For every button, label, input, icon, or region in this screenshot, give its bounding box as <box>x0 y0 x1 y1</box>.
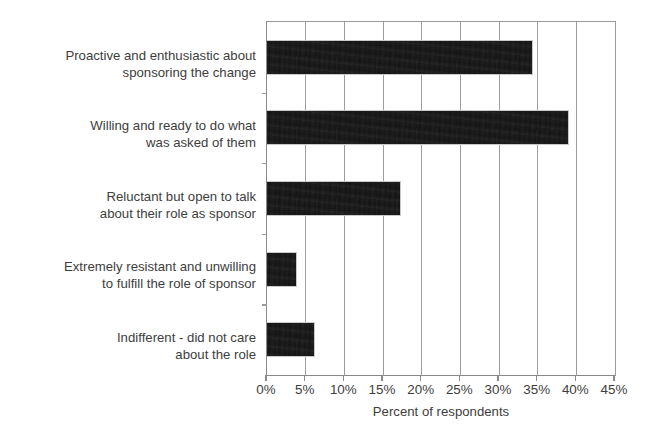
gridline-45% <box>615 22 616 375</box>
bar-4 <box>267 322 315 357</box>
bar-1 <box>267 110 569 145</box>
x-axis-tick-labels: 0%5%10%15%20%25%30%35%40%45% <box>0 381 659 401</box>
x-axis-title: Percent of respondents <box>266 403 616 421</box>
y-axis-tick-2 <box>262 163 267 164</box>
bar-0 <box>267 40 533 75</box>
x-tick-label-45%: 45% <box>589 381 639 399</box>
category-label-1: Willing and ready to do what was asked o… <box>0 117 262 151</box>
category-label-2: Reluctant but open to talk about their r… <box>0 188 262 222</box>
y-axis-tick-3 <box>262 234 267 235</box>
gridline-20% <box>421 22 422 375</box>
gridline-35% <box>537 22 538 375</box>
gridline-25% <box>460 22 461 375</box>
gridline-40% <box>576 22 577 375</box>
bar-chart: Proactive and enthusiastic about sponsor… <box>0 0 659 440</box>
gridline-30% <box>499 22 500 375</box>
y-axis-tick-1 <box>262 93 267 94</box>
bar-2 <box>267 181 401 216</box>
y-axis-tick-4 <box>262 304 267 305</box>
category-axis-labels: Proactive and enthusiastic about sponsor… <box>0 21 262 374</box>
category-label-0: Proactive and enthusiastic about sponsor… <box>0 47 262 81</box>
category-label-4: Indifferent - did not care about the rol… <box>0 329 262 363</box>
bar-3 <box>267 252 297 287</box>
category-label-3: Extremely resistant and unwilling to ful… <box>0 258 262 292</box>
plot-area <box>266 21 616 376</box>
